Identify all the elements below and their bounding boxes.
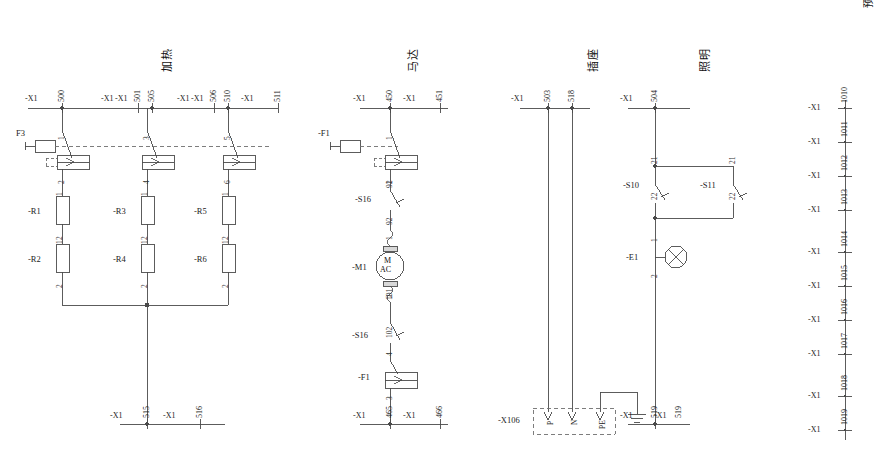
device-label-e1: -E1 [626,252,638,262]
terminal-number: 1013 [841,189,849,205]
terminal-prefix: -X1 [191,95,203,103]
terminal-number: 501 [134,90,142,102]
switch-pin-top: 91 [386,181,394,189]
device-label-x106: -X106 [498,415,520,425]
device-label-r4: -R4 [113,254,126,264]
terminal-prefix: -X1 [808,350,820,358]
motor-pin-top: 1 [386,236,394,240]
section-title-socket: 插座 [584,48,600,72]
terminal-number: 1016 [841,299,849,315]
device-label-r2: -R2 [28,254,41,264]
terminal-prefix: -X1 [115,95,127,103]
terminal-number: 506 [210,90,218,102]
contact-pin-bottom: 6 [224,180,232,184]
contact-pin-bottom: 2 [58,180,66,184]
terminal-prefix: -X1 [241,95,253,103]
socket-pin-n: N [570,420,579,425]
contact-pin-top: 1 [386,136,394,140]
terminal-number: 1012 [841,155,849,171]
terminal-number: 516 [196,406,204,418]
terminal-prefix: -X1 [403,95,415,103]
terminal-number: 511 [274,90,282,102]
device-label-s16-lower: -S16 [352,330,368,340]
terminal-prefix: -X1 [808,282,820,290]
resistor-pin-top: 1 [56,240,64,244]
terminal-prefix: -X1 [808,172,820,180]
terminal-prefix: -X1 [808,138,820,146]
terminal-prefix: -X1 [808,248,820,256]
terminal-number: 1014 [841,231,849,247]
device-label-r5: -R5 [194,206,207,216]
terminal-prefix: -X1 [403,412,415,420]
device-label-s16-upper: -S16 [355,194,371,204]
terminal-prefix: -X1 [620,412,632,420]
terminal-number: 500 [58,90,66,102]
terminal-number: 450 [386,90,394,102]
contact-pin-bottom: 4 [143,180,151,184]
terminal-number: 1011 [841,121,849,137]
terminal-prefix: -X1 [177,95,189,103]
terminal-number: 519 [651,406,659,418]
resistor-pin-top: 1 [141,240,149,244]
motor-symbol-text-top: M [384,256,391,265]
terminal-prefix: -X1 [163,412,175,420]
terminal-number: 466 [436,406,444,418]
terminal-prefix: -X1 [101,95,113,103]
device-label-m1: -M1 [352,262,367,272]
device-label-f1-lower: -F1 [358,372,370,382]
device-label-r6: -R6 [194,254,207,264]
contact-pin-top: 1 [58,136,66,140]
terminal-prefix: -X1 [353,412,365,420]
reserved-strip-title: 预留接线端子排 [860,0,875,8]
terminal-number: 504 [651,90,659,102]
device-label-s10: -S10 [623,180,639,190]
device-label-s11: -S11 [700,180,716,190]
lamp-pin-bottom: 2 [651,274,659,278]
resistor-pin-bottom: 2 [141,284,149,288]
terminal-number: 1017 [841,333,849,349]
switch-pin-bottom: 22 [729,193,737,201]
terminal-number: 451 [436,90,444,102]
terminal-number: 515 [143,406,151,418]
fuse-pin-bottom: 3 [386,396,394,400]
switch-pin-bottom: 92 [386,218,394,226]
lamp-pin-top: 1 [651,238,659,242]
terminal-prefix: -X1 [808,206,820,214]
switch-pin-bottom: 22 [651,193,659,201]
device-label-r3: -R3 [113,206,126,216]
switch-pin-top: 101 [386,289,394,300]
switch-pin-top: 21 [651,157,659,165]
terminal-prefix: -X1 [808,316,820,324]
terminal-number: 1019 [841,409,849,425]
resistor-pin-top: 1 [141,192,149,196]
resistor-pin-top: 1 [222,192,230,196]
terminal-number: 503 [544,90,552,102]
terminal-number: 1018 [841,375,849,391]
device-label-f1: -F1 [318,128,330,138]
terminal-prefix: -X1 [808,392,820,400]
terminal-prefix: -X1 [25,95,37,103]
terminal-prefix: -X1 [353,95,365,103]
terminal-number: 519 [675,406,683,418]
resistor-pin-top: 1 [56,192,64,196]
contact-pin-top: 5 [224,136,232,140]
section-title-motor: 马达 [404,48,420,72]
socket-pin-p: P [546,421,555,425]
socket-pin-pe: PE [598,420,607,429]
terminal-number: 505 [148,90,156,102]
terminal-prefix: -X1 [620,95,632,103]
switch-pin-bottom: 102 [386,327,394,338]
switch-pin-top: 21 [729,157,737,165]
device-label-r1: -R1 [28,206,41,216]
terminal-prefix: -X1 [511,95,523,103]
terminal-number: 510 [224,90,232,102]
contact-pin-top: 3 [143,136,151,140]
device-label-f3: F3 [16,128,25,138]
motor-symbol-text-bottom: AC [380,265,391,274]
terminal-number: 465 [386,406,394,418]
resistor-pin-top: 1 [222,240,230,244]
resistor-pin-bottom: 2 [222,284,230,288]
terminal-number: 1010 [841,87,849,103]
